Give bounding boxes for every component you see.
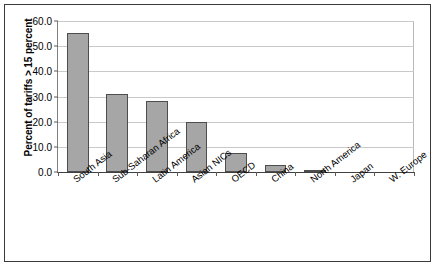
bar-slot	[295, 21, 335, 172]
bar-series	[58, 21, 414, 172]
bar-slot	[58, 21, 98, 172]
y-tick-label: 60.0	[33, 16, 52, 27]
chart-figure: Percent of tariffs > 15 percent 60.050.0…	[0, 0, 435, 266]
y-tick-label: 30.0	[33, 91, 52, 102]
bar-slot	[375, 21, 415, 172]
y-tick-label: 0.0	[38, 167, 52, 178]
y-tick-label: 40.0	[33, 66, 52, 77]
y-tick-label: 10.0	[33, 141, 52, 152]
plot-area: 60.050.040.030.020.010.00.0	[57, 21, 414, 173]
x-axis-labels: South AsiaSub-Saharan AfricaLatin Americ…	[57, 176, 413, 246]
y-tick-label: 20.0	[33, 116, 52, 127]
y-tick-label: 50.0	[33, 41, 52, 52]
x-tick-mark	[414, 172, 415, 176]
bar-slot	[256, 21, 296, 172]
bar[interactable]	[67, 33, 89, 172]
bar[interactable]	[106, 94, 128, 172]
